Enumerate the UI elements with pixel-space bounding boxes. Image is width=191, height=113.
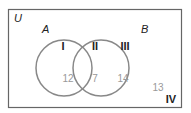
set-b-label: B <box>141 23 148 35</box>
region-iii-count: 14 <box>117 73 129 84</box>
region-i-label: I <box>61 40 64 52</box>
region-i-count: 12 <box>62 73 74 84</box>
region-iv-count: 13 <box>152 82 164 93</box>
region-iii-label: III <box>120 40 129 52</box>
universe-label: U <box>14 12 22 24</box>
set-a-label: A <box>41 23 49 35</box>
venn-diagram: U A B I II III IV 12 7 14 13 <box>0 0 191 113</box>
region-ii-count: 7 <box>92 73 98 84</box>
region-iv-label: IV <box>166 93 177 105</box>
region-ii-label: II <box>92 40 98 52</box>
